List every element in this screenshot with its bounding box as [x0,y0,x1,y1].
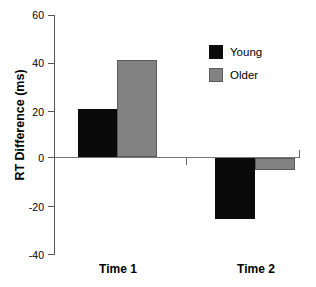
bar-older-time1 [117,60,157,157]
x-category-label-time1: Time 1 [78,262,158,276]
bar-young-time1 [78,109,117,157]
bar-young-time2 [215,158,255,219]
legend-label-young: Young [230,46,262,58]
bar-older-time2 [255,158,295,170]
plot-area [0,0,316,287]
legend-label-older: Older [230,69,258,81]
legend-swatch-older-icon [209,68,223,82]
chart-legend: Young Older [209,44,262,90]
x-category-label-time2: Time 2 [216,262,296,276]
legend-swatch-young-icon [209,45,223,59]
legend-entry-older: Older [209,67,262,82]
legend-entry-young: Young [209,44,262,59]
bar-chart-figure: RT Difference (ms) 60 40 20 0 -20 -40 Ti… [0,0,316,287]
